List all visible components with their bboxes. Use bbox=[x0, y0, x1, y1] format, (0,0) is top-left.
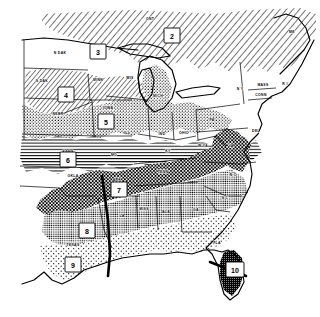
zone-marker-5-label: 5 bbox=[104, 119, 108, 126]
state-label-ga: GA bbox=[193, 208, 199, 212]
hardiness-zone-map: N DAK S DAK MINN WIS NEBR IOWA ILL MICH … bbox=[0, 0, 320, 317]
state-label-ohio: OHIO bbox=[179, 131, 189, 135]
state-label-me: ME bbox=[289, 30, 295, 34]
state-label-conn: CONN bbox=[255, 93, 267, 97]
state-label-nebr: NEBR bbox=[52, 112, 63, 116]
state-label-okla: OKLA bbox=[67, 174, 78, 178]
state-label-iowa: IOWA bbox=[103, 106, 114, 110]
zone-marker-3[interactable]: 3 bbox=[90, 44, 106, 59]
state-label-n-c: N C bbox=[230, 173, 237, 177]
line-ky-ohio bbox=[138, 134, 196, 140]
state-label-pa: PA bbox=[209, 118, 214, 122]
state-label-mass: MASS bbox=[257, 83, 269, 87]
state-label-mich: MICH bbox=[153, 94, 163, 98]
state-label-s-c: S C bbox=[222, 196, 229, 200]
zone-marker-4-label: 4 bbox=[64, 92, 68, 99]
state-label-s-dak: S DAK bbox=[36, 79, 49, 83]
zone-marker-4[interactable]: 4 bbox=[58, 87, 74, 102]
state-label-fla: FLA bbox=[213, 241, 221, 245]
zone-marker-9[interactable]: 9 bbox=[65, 257, 81, 272]
zone-marker-10-label: 10 bbox=[231, 267, 239, 274]
zone-marker-7-label: 7 bbox=[117, 187, 121, 194]
zone-marker-7[interactable]: 7 bbox=[111, 182, 127, 197]
map-canvas: N DAK S DAK MINN WIS NEBR IOWA ILL MICH … bbox=[0, 0, 320, 317]
state-label-ind: IND bbox=[159, 132, 166, 136]
state-label-ont: ONT bbox=[146, 17, 155, 21]
state-label-mo: MO bbox=[111, 153, 117, 157]
zone-marker-10[interactable]: 10 bbox=[226, 262, 244, 277]
zone-marker-6[interactable]: 6 bbox=[60, 152, 76, 167]
zone-marker-3-label: 3 bbox=[96, 49, 100, 56]
zone-marker-2-label: 2 bbox=[170, 33, 174, 40]
state-label-w-va: W VA bbox=[198, 144, 208, 148]
state-label-miss: MISS bbox=[139, 207, 149, 211]
line-mass-conn bbox=[248, 88, 276, 90]
state-label-tenn: TENN bbox=[158, 170, 169, 174]
state-label-ark: ARK bbox=[113, 178, 122, 182]
zone-marker-6-label: 6 bbox=[66, 157, 70, 164]
state-label-ky: KY bbox=[165, 149, 171, 153]
zone-marker-2[interactable]: 2 bbox=[164, 28, 180, 43]
state-label-va: VA bbox=[228, 144, 233, 148]
zone-marker-8[interactable]: 8 bbox=[79, 223, 95, 238]
state-label-n-dak: N DAK bbox=[54, 51, 67, 55]
state-label-n-y: N Y bbox=[237, 87, 244, 91]
zone-marker-9-label: 9 bbox=[71, 262, 75, 269]
state-label-ill: ILL bbox=[124, 131, 130, 135]
state-label-r-i: R I bbox=[282, 82, 287, 86]
lake-erie-ontario bbox=[176, 86, 220, 98]
line-ny-newengland bbox=[240, 62, 244, 104]
state-label-texas: TEXAS bbox=[66, 243, 79, 247]
zone-marker-5[interactable]: 5 bbox=[98, 114, 114, 129]
state-label-del: DEL bbox=[252, 129, 260, 133]
state-label-la: LA bbox=[119, 214, 124, 218]
zone-marker-8-label: 8 bbox=[85, 228, 89, 235]
state-label-minn: MINN bbox=[93, 78, 103, 82]
state-label-ala: ALA bbox=[162, 210, 170, 214]
state-label-wis: WIS bbox=[126, 76, 134, 80]
